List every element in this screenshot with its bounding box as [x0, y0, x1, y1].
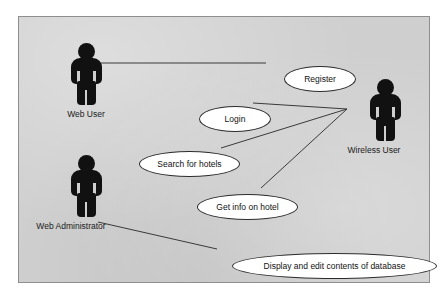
actor-wireless-user[interactable]: Wireless User	[365, 79, 405, 155]
use-case-label: Login	[225, 114, 246, 124]
actor-web-user[interactable]: Web User	[66, 43, 106, 119]
scan-top-artifact	[0, 0, 447, 7]
use-case-label: Register	[304, 74, 336, 84]
use-case-login[interactable]: Login	[199, 106, 271, 132]
person-legs	[376, 117, 395, 141]
person-icon	[66, 155, 106, 217]
actor-label: Web User	[66, 109, 106, 119]
use-case-register[interactable]: Register	[284, 66, 356, 92]
person-icon	[66, 43, 106, 105]
person-legs	[77, 193, 96, 217]
use-case-display-and-edit-contents-of-database[interactable]: Display and edit contents of database	[232, 253, 437, 279]
association-wireless-user-getinfo	[261, 109, 347, 188]
person-legs	[77, 81, 96, 105]
actor-label: Web Administrator	[36, 221, 106, 231]
use-case-search-for-hotels[interactable]: Search for hotels	[139, 151, 240, 177]
actor-label: Wireless User	[343, 145, 405, 155]
use-case-label: Display and edit contents of database	[264, 261, 406, 271]
association-web-admin-display	[98, 222, 217, 249]
use-case-diagram-canvas: Web User Web Administrator Wireless User…	[0, 0, 447, 296]
actor-web-administrator[interactable]: Web Administrator	[66, 155, 106, 231]
use-case-get-info-on-hotel[interactable]: Get info on hotel	[197, 194, 298, 220]
use-case-label: Search for hotels	[157, 159, 221, 169]
use-case-label: Get info on hotel	[216, 202, 278, 212]
diagram-panel: Web User Web Administrator Wireless User…	[18, 16, 430, 283]
person-icon	[365, 79, 405, 141]
association-wireless-user-login	[253, 103, 347, 109]
